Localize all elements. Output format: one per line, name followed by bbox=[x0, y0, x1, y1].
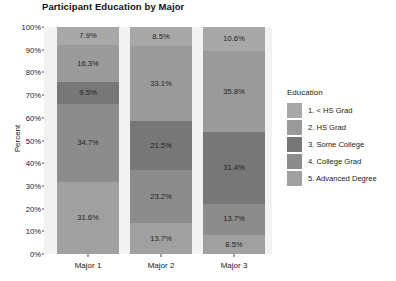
bar-segment-label: 34.7% bbox=[77, 139, 99, 147]
y-axis-tick-label: 0% bbox=[30, 250, 41, 259]
bar-segment[interactable]: 21.5% bbox=[130, 121, 192, 170]
y-axis-tick-label: 40% bbox=[26, 159, 41, 168]
legend-item-label: 3. Some College bbox=[308, 140, 364, 149]
y-axis-tick-mark bbox=[42, 231, 45, 232]
bar-segment[interactable]: 31.6% bbox=[57, 182, 119, 254]
y-axis-tick-label: 70% bbox=[26, 91, 41, 100]
bar-segment[interactable]: 31.4% bbox=[203, 132, 265, 203]
legend-title: Education bbox=[287, 88, 377, 97]
bar-segment-label: 8.5% bbox=[152, 33, 169, 41]
y-axis-tick-mark bbox=[42, 140, 45, 141]
y-axis-tick-mark bbox=[42, 185, 45, 186]
legend: Education 1. < HS Grad2. HS Grad3. Some … bbox=[287, 88, 377, 187]
bar-segment[interactable]: 16.3% bbox=[57, 45, 119, 82]
bar-segment[interactable]: 10.6% bbox=[203, 27, 265, 51]
bar-segment[interactable]: 33.1% bbox=[130, 46, 192, 121]
legend-item-label: 2. HS Grad bbox=[308, 123, 346, 132]
y-axis-tick-label: 20% bbox=[26, 204, 41, 213]
chart-container: Participant Education by Major Percent 0… bbox=[0, 0, 396, 281]
legend-items: 1. < HS Grad2. HS Grad3. Some College4. … bbox=[287, 102, 377, 187]
legend-item[interactable]: 2. HS Grad bbox=[287, 119, 377, 136]
legend-swatch bbox=[287, 120, 302, 135]
y-axis-tick-mark bbox=[42, 163, 45, 164]
bar-segment-label: 9.5% bbox=[79, 89, 96, 97]
legend-swatch bbox=[287, 154, 302, 169]
y-axis-tick-label: 100% bbox=[22, 23, 41, 32]
bar-segment-label: 35.8% bbox=[223, 88, 245, 96]
y-axis-tick-label: 80% bbox=[26, 68, 41, 77]
bar-segment[interactable]: 8.5% bbox=[203, 235, 265, 254]
y-axis-tick-label: 10% bbox=[26, 227, 41, 236]
x-axis-tick-label: Major 1 bbox=[75, 261, 102, 270]
bar-segment[interactable]: 34.7% bbox=[57, 104, 119, 183]
y-axis-tick-mark bbox=[42, 27, 45, 28]
stacked-bar[interactable]: 31.6%34.7%9.5%16.3%7.9% bbox=[57, 27, 119, 254]
y-axis-tick-label: 90% bbox=[26, 45, 41, 54]
legend-swatch bbox=[287, 171, 302, 186]
chart-title: Participant Education by Major bbox=[42, 1, 184, 12]
x-axis-tick-label: Major 2 bbox=[148, 261, 175, 270]
legend-item[interactable]: 4. College Grad bbox=[287, 153, 377, 170]
y-axis-tick-label: 30% bbox=[26, 181, 41, 190]
legend-item-label: 1. < HS Grad bbox=[308, 106, 353, 115]
bar-segment-label: 7.9% bbox=[79, 32, 96, 40]
bar-segment[interactable]: 7.9% bbox=[57, 27, 119, 45]
bar-segment-label: 23.2% bbox=[150, 193, 172, 201]
y-axis-tick-mark bbox=[42, 117, 45, 118]
y-axis-tick-mark bbox=[42, 254, 45, 255]
bar-segment[interactable]: 8.5% bbox=[130, 27, 192, 46]
y-axis-tick-label: 50% bbox=[26, 136, 41, 145]
legend-item-label: 4. College Grad bbox=[308, 157, 361, 166]
bar-segment-label: 13.7% bbox=[223, 215, 245, 223]
stacked-bar[interactable]: 13.7%23.2%21.5%33.1%8.5% bbox=[130, 27, 192, 254]
y-axis-tick-label: 60% bbox=[26, 113, 41, 122]
y-axis-tick-mark bbox=[42, 208, 45, 209]
bar-segment-label: 8.5% bbox=[225, 241, 242, 249]
plot-panel: 0%10%20%30%40%50%60%70%80%90%100%31.6%34… bbox=[44, 27, 272, 254]
bar-segment[interactable]: 35.8% bbox=[203, 51, 265, 132]
y-axis-title: Percent bbox=[13, 109, 22, 169]
bar-segment-label: 13.7% bbox=[150, 235, 172, 243]
legend-item[interactable]: 3. Some College bbox=[287, 136, 377, 153]
bar-segment[interactable]: 13.7% bbox=[203, 204, 265, 235]
legend-swatch bbox=[287, 103, 302, 118]
y-axis-tick-mark bbox=[42, 72, 45, 73]
x-axis-tick-mark bbox=[234, 254, 235, 257]
bar-segment-label: 31.4% bbox=[223, 164, 245, 172]
legend-item[interactable]: 1. < HS Grad bbox=[287, 102, 377, 119]
stacked-bar[interactable]: 8.5%13.7%31.4%35.8%10.6% bbox=[203, 27, 265, 254]
bar-segment-label: 10.6% bbox=[223, 35, 245, 43]
y-axis-tick-mark bbox=[42, 95, 45, 96]
y-axis-tick-mark bbox=[42, 49, 45, 50]
x-axis-tick-label: Major 3 bbox=[221, 261, 248, 270]
bar-segment-label: 21.5% bbox=[150, 142, 172, 150]
legend-item[interactable]: 5. Advanced Degree bbox=[287, 170, 377, 187]
bar-segment[interactable]: 9.5% bbox=[57, 82, 119, 104]
x-axis-tick-mark bbox=[88, 254, 89, 257]
legend-swatch bbox=[287, 137, 302, 152]
bar-segment-label: 31.6% bbox=[77, 214, 99, 222]
x-axis-tick-mark bbox=[161, 254, 162, 257]
bar-segment-label: 16.3% bbox=[77, 60, 99, 68]
bar-segment[interactable]: 23.2% bbox=[130, 170, 192, 223]
bar-segment-label: 33.1% bbox=[150, 80, 172, 88]
legend-item-label: 5. Advanced Degree bbox=[308, 174, 377, 183]
bar-segment[interactable]: 13.7% bbox=[130, 223, 192, 254]
